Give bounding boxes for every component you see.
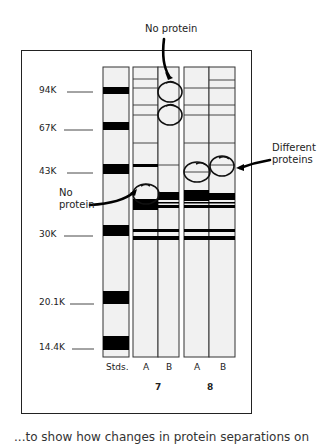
different-proteins-label-line1: Different: [272, 143, 316, 153]
lane-standards: [103, 67, 129, 357]
mw-label-94k: 94K: [39, 85, 56, 95]
mw-label-20-1k: 20.1K: [39, 297, 65, 307]
mw-label-30k: 30K: [39, 229, 56, 239]
lane-label-7b: B: [166, 362, 172, 372]
lane-8b: [209, 67, 235, 357]
mw-label-67k: 67K: [39, 123, 56, 133]
lane-label-8b: B: [220, 362, 226, 372]
top-no-protein-label: No protein: [145, 24, 197, 34]
group-label-8: 8: [207, 382, 213, 392]
lane-7b: [158, 67, 179, 357]
arrow-right: [240, 160, 270, 168]
left-no-protein-label-line1: No: [59, 188, 73, 198]
mw-label-14-4k: 14.4K: [39, 342, 65, 352]
mw-marker-lines: [64, 92, 94, 349]
mw-label-43k: 43K: [39, 166, 56, 176]
lanes: [103, 67, 235, 357]
figure-caption-partial: ...to show how changes in protein separa…: [14, 430, 309, 444]
lane-8a: [184, 67, 209, 357]
lane-label-stds: Stds.: [106, 362, 129, 372]
lane-label-7a: A: [143, 362, 149, 372]
lane-label-8a: A: [194, 362, 200, 372]
different-proteins-label-line2: proteins: [272, 155, 313, 165]
left-no-protein-label-line2: protein: [59, 200, 95, 210]
group-label-7: 7: [155, 382, 161, 392]
lane-7a: [133, 67, 158, 357]
